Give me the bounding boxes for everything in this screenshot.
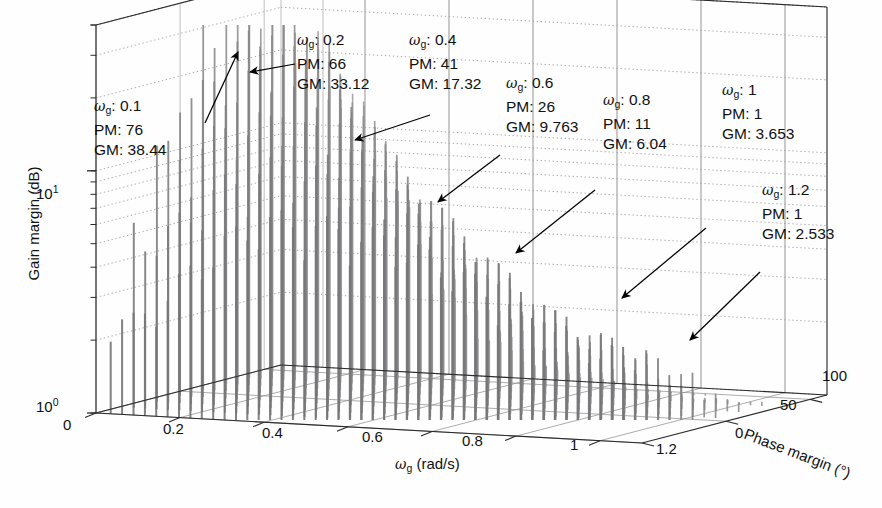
annotation-omega-line: ωg: 0.6: [506, 73, 578, 97]
annotation-gm: GM: 33.12: [297, 74, 369, 94]
annotation-omega-0.2: ωg: 0.2 PM: 66 GM: 33.12: [297, 30, 369, 94]
x-tick-0.8: 0.8: [462, 432, 483, 449]
annotation-omega-line: ωg: 1: [722, 80, 794, 104]
annotation-gm: GM: 17.32: [409, 74, 481, 94]
annotation-omega-1.2: ωg: 1.2 PM: 1 GM: 2.533: [762, 180, 834, 244]
y-tick-10e1: 101: [36, 183, 59, 202]
annotation-pm: PM: 66: [297, 54, 369, 74]
annotation-pm: PM: 26: [506, 97, 578, 117]
y-axis-label: Gain margin (dB): [25, 129, 42, 319]
x-tick-0: 0: [63, 416, 71, 433]
annotation-omega-1: ωg: 1 PM: 1 GM: 3.653: [722, 80, 794, 144]
annotation-omega-0.8: ωg: 0.8 PM: 11 GM: 6.04: [603, 90, 667, 154]
annotation-pm: PM: 1: [722, 104, 794, 124]
annotation-omega-line: ωg: 0.8: [603, 90, 667, 114]
z-tick-50: 50: [780, 396, 797, 413]
annotation-omega-line: ωg: 0.2: [297, 30, 369, 54]
z-tick-100: 100: [822, 367, 847, 384]
x-tick-0.4: 0.4: [262, 424, 283, 441]
annotation-gm: GM: 9.763: [506, 117, 578, 137]
annotation-gm: GM: 2.533: [762, 224, 834, 244]
annotation-gm: GM: 3.653: [722, 124, 794, 144]
x-tick-1.2: 1.2: [656, 440, 677, 457]
annotation-omega-0.6: ωg: 0.6 PM: 26 GM: 9.763: [506, 73, 578, 137]
annotation-pm: PM: 1: [762, 204, 834, 224]
annotation-pm: PM: 11: [603, 114, 667, 134]
annotation-omega-line: ωg: 0.1: [94, 96, 166, 120]
y-tick-10e0: 100: [36, 396, 59, 415]
annotation-omega-0.4: ωg: 0.4 PM: 41 GM: 17.32: [409, 30, 481, 94]
figure-canvas: ωg: 0.1 PM: 76 GM: 38.44 ωg: 0.2 PM: 66 …: [0, 0, 882, 508]
z-tick-0: 0: [735, 424, 743, 441]
annotation-gm: GM: 6.04: [603, 134, 667, 154]
annotation-omega-0.1: ωg: 0.1 PM: 76 GM: 38.44: [94, 96, 166, 160]
x-tick-0.2: 0.2: [163, 420, 184, 437]
x-axis-label: ωg (rad/s): [395, 455, 460, 474]
x-tick-1: 1: [570, 436, 578, 453]
annotation-pm: PM: 41: [409, 54, 481, 74]
annotation-omega-line: ωg: 1.2: [762, 180, 834, 204]
x-tick-0.6: 0.6: [362, 428, 383, 445]
annotation-pm: PM: 76: [94, 120, 166, 140]
annotation-omega-line: ωg: 0.4: [409, 30, 481, 54]
annotation-gm: GM: 38.44: [94, 140, 166, 160]
callout-arrows: [205, 52, 760, 340]
